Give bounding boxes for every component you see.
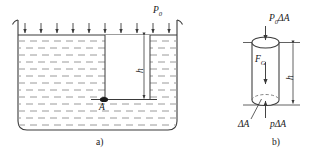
vessel-rim-left bbox=[13, 20, 19, 25]
water-hatching bbox=[18, 41, 177, 97]
panel-a-caption: a) bbox=[96, 137, 103, 147]
panel-b-caption: b) bbox=[272, 137, 280, 147]
bottom-force-label: pΔA bbox=[270, 120, 286, 130]
weight-force-label: FG bbox=[255, 55, 266, 66]
depth-label-a: h bbox=[136, 68, 146, 73]
vessel-rim-right bbox=[177, 20, 183, 25]
area-label: ΔA bbox=[238, 120, 249, 130]
water-hatching-lower bbox=[18, 104, 177, 125]
top-force-label: P0ΔA bbox=[269, 14, 290, 25]
vessel-outline bbox=[18, 20, 177, 130]
atmospheric-pressure-arrows bbox=[25, 23, 169, 33]
ambient-pressure-label: P0 bbox=[153, 6, 162, 17]
panel-a-group bbox=[13, 20, 183, 130]
panel-b-group bbox=[243, 26, 300, 119]
point-a-label: A bbox=[99, 103, 105, 113]
depth-label-b: h bbox=[286, 75, 296, 80]
physics-figure: P0 h A a) P0ΔA FG h ΔA pΔA b) bbox=[0, 0, 318, 158]
